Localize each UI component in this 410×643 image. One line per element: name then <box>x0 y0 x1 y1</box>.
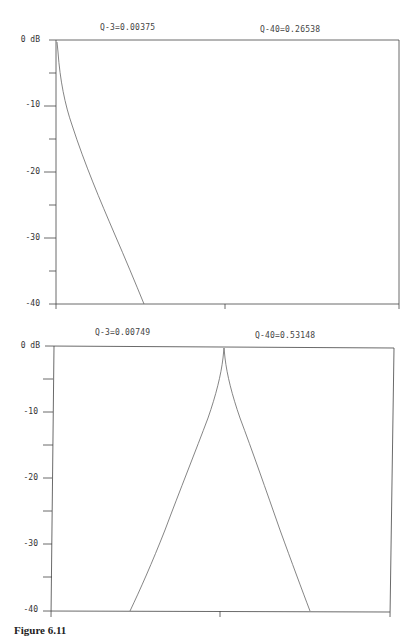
bottom-response-curve-left <box>130 348 224 611</box>
bottom-chart: Q-3=0.00749 Q-40=0.53148 0 dB -10 -20 -3… <box>0 0 410 620</box>
bottom-response-curve-right <box>224 348 310 611</box>
figure-caption: Figure 6.11 <box>14 624 66 636</box>
bottom-plot-area <box>0 0 410 620</box>
